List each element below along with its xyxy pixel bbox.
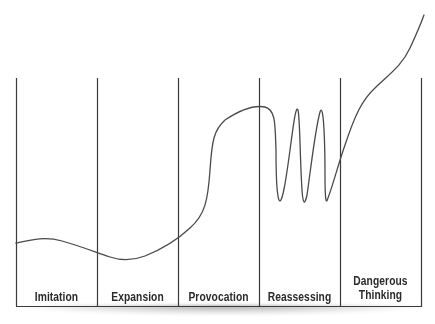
stage-label-dangerous-thinking: Dangerous Thinking <box>347 274 413 302</box>
progression-curve <box>16 15 424 260</box>
stage-label-reassessing: Reassessing <box>266 290 332 304</box>
stage-label-line: Thinking <box>347 288 413 302</box>
stage-label-imitation: Imitation <box>23 290 89 304</box>
stage-label-line: Dangerous <box>347 274 413 288</box>
stage-diagram: Imitation Expansion Provocation Reassess… <box>0 0 435 324</box>
stage-label-provocation: Provocation <box>185 290 251 304</box>
stage-label-expansion: Expansion <box>104 290 170 304</box>
